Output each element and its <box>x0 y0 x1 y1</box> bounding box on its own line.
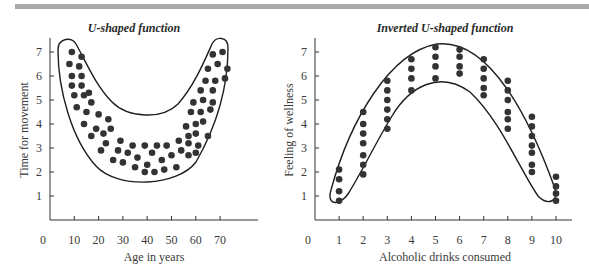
y-tick-label: 1 <box>301 189 307 203</box>
data-point <box>480 66 487 73</box>
y-tick-label: 7 <box>301 45 307 59</box>
x-tick-label: 8 <box>505 233 511 247</box>
data-point <box>529 169 536 176</box>
data-point <box>66 61 73 68</box>
data-point <box>110 157 117 164</box>
x-tick-label: 2 <box>360 233 366 247</box>
x-tick-label: 9 <box>529 233 535 247</box>
data-point <box>200 97 207 104</box>
data-point <box>212 78 219 85</box>
data-point <box>76 63 83 70</box>
data-point <box>95 111 102 118</box>
data-point <box>193 150 200 157</box>
data-point <box>205 66 212 73</box>
data-point <box>336 188 343 195</box>
data-point <box>73 104 80 111</box>
data-point <box>408 66 415 73</box>
data-point <box>360 121 367 128</box>
y-axis-label: Feeling of wellness <box>282 83 296 177</box>
data-point <box>529 123 536 130</box>
data-point <box>69 82 76 89</box>
data-point <box>175 138 182 145</box>
x-tick-label: 20 <box>93 233 105 247</box>
data-point <box>202 78 209 85</box>
data-point <box>71 92 78 99</box>
x-tick-label: 10 <box>550 233 562 247</box>
data-point <box>188 109 195 116</box>
data-point <box>210 87 217 94</box>
data-point <box>141 142 148 149</box>
data-point <box>408 87 415 94</box>
data-point <box>553 190 560 197</box>
data-point <box>529 133 536 140</box>
data-point <box>161 166 168 173</box>
data-point <box>529 162 536 169</box>
data-point <box>480 92 487 99</box>
x-axis-label: Age in years <box>124 250 185 264</box>
data-point <box>173 164 180 171</box>
data-point <box>432 54 439 61</box>
data-point <box>168 152 175 159</box>
data-point <box>141 169 148 176</box>
y-tick-label: 1 <box>36 189 42 203</box>
data-point <box>124 150 131 157</box>
data-point <box>432 44 439 51</box>
figure: U-shaped function 123456710203040506070 … <box>0 0 589 265</box>
data-point <box>117 138 124 145</box>
data-point <box>103 140 110 147</box>
x-tick-label: 1 <box>336 233 342 247</box>
x-tick-label: 50 <box>166 233 178 247</box>
data-point <box>81 121 88 128</box>
data-point <box>553 174 560 181</box>
data-point <box>115 147 122 154</box>
data-point <box>78 54 85 61</box>
y-tick-label: 3 <box>36 141 42 155</box>
data-point <box>120 159 127 166</box>
data-point <box>408 75 415 82</box>
data-point <box>505 78 512 85</box>
data-point <box>132 164 139 171</box>
data-point <box>529 150 536 157</box>
data-point <box>360 140 367 147</box>
x-tick-label: 3 <box>384 233 390 247</box>
y-tick-label: 6 <box>36 69 42 83</box>
data-point <box>432 63 439 70</box>
data-point <box>69 49 76 56</box>
data-point <box>88 99 95 106</box>
data-point <box>360 130 367 137</box>
data-point <box>505 97 512 104</box>
y-tick-label: 6 <box>301 69 307 83</box>
u-shaped-chart: U-shaped function 123456710203040506070 … <box>17 21 258 264</box>
x-tick-label: 10 <box>68 233 80 247</box>
y-tick-label: 4 <box>301 117 307 131</box>
y-tick-label: 2 <box>36 165 42 179</box>
inverted-u-chart: Inverted U-shaped function 1234567123456… <box>282 21 572 264</box>
data-point <box>163 142 170 149</box>
data-point <box>480 85 487 92</box>
data-point <box>154 142 161 149</box>
data-point <box>529 142 536 149</box>
data-point <box>200 118 207 125</box>
data-point <box>214 61 221 68</box>
data-point <box>480 75 487 82</box>
data-point <box>219 49 226 56</box>
data-point <box>81 92 88 99</box>
data-point <box>193 121 200 128</box>
data-point <box>197 87 204 94</box>
data-point <box>384 126 391 133</box>
data-point <box>336 166 343 173</box>
chart-title: Inverted U-shaped function <box>376 21 514 35</box>
data-point <box>93 126 100 133</box>
x-tick-label: 6 <box>457 233 463 247</box>
data-point <box>408 56 415 63</box>
data-point <box>107 126 114 133</box>
y-tick-label: 7 <box>36 45 42 59</box>
x-tick-label: 60 <box>190 233 202 247</box>
data-point <box>224 66 231 73</box>
data-point <box>158 157 165 164</box>
data-point <box>384 97 391 104</box>
data-point <box>505 109 512 116</box>
x-axis-label: Alcoholic drinks consumed <box>379 250 511 264</box>
x-tick-label: 0 <box>305 233 311 247</box>
data-point <box>88 133 95 140</box>
